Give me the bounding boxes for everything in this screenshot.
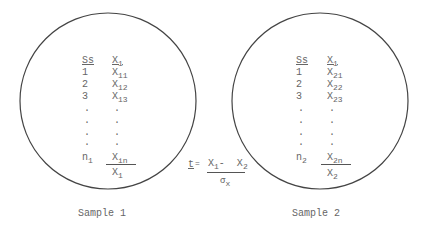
ss-row-2: 2 — [296, 80, 302, 90]
x-row-2: X22 — [327, 80, 343, 90]
x-last: X2n — [327, 153, 343, 163]
ss-ellipsis: . — [84, 116, 90, 126]
ss-ellipsis: . — [298, 138, 304, 148]
ss-ellipsis: . — [84, 104, 90, 114]
ss-last: n2 — [296, 153, 307, 163]
x-ellipsis: . — [114, 138, 120, 148]
x-header: X1 — [112, 56, 123, 66]
x-row-1: X11 — [112, 68, 128, 78]
sample-2-label: Sample 2 — [292, 208, 340, 219]
x-row-3: X13 — [112, 92, 128, 102]
ss-last: n1 — [82, 153, 93, 163]
x-header: X1 — [327, 56, 338, 66]
ss-row-1: 1 — [296, 68, 302, 78]
x-ellipsis: . — [329, 116, 335, 126]
ss-ellipsis: . — [298, 116, 304, 126]
ss-row-3: 3 — [82, 92, 88, 102]
numerator: X1- X2 — [208, 159, 248, 169]
ss-header: Ss — [82, 56, 94, 66]
x-ellipsis: . — [114, 116, 120, 126]
x-last: Xin — [112, 153, 128, 163]
diagram-canvas — [0, 0, 428, 231]
sample-1-circle — [20, 13, 196, 189]
ss-row-2: 2 — [82, 80, 88, 90]
x-ellipsis: . — [329, 104, 335, 114]
fraction-bar — [207, 172, 245, 173]
ss-header: Ss — [296, 56, 308, 66]
ss-row-1: 1 — [82, 68, 88, 78]
denominator: σx — [220, 176, 230, 186]
x-ellipsis: . — [114, 104, 120, 114]
sample-2-circle — [232, 13, 408, 189]
x-row-2: X12 — [112, 80, 128, 90]
sample-1-label: Sample 1 — [78, 208, 126, 219]
sample-mean: X2 — [327, 169, 338, 179]
ss-ellipsis: . — [298, 104, 304, 114]
x-row-3: X23 — [327, 92, 343, 102]
t-symbol: t — [188, 160, 194, 170]
sample-mean: X1 — [112, 168, 123, 178]
sum-line — [321, 164, 351, 165]
ss-row-3: 3 — [296, 92, 302, 102]
sum-line — [106, 164, 136, 165]
x-ellipsis: . — [329, 138, 335, 148]
ss-ellipsis: . — [84, 138, 90, 148]
x-row-1: X21 — [327, 68, 343, 78]
equals-sign: = — [195, 159, 200, 169]
